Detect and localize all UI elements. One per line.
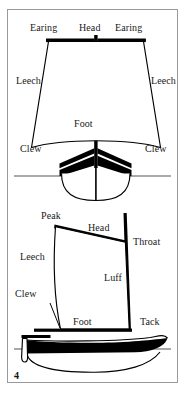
label-foot-bottom: Foot [73, 317, 92, 327]
sail-terminology-diagram [0, 0, 192, 401]
label-leech-left: Leech [16, 76, 41, 86]
tiller [22, 335, 51, 338]
label-leech-bottom: Leech [20, 252, 45, 262]
rudder-blade [22, 339, 28, 363]
label-earing-left: Earing [30, 23, 57, 33]
label-tack: Tack [140, 317, 160, 327]
label-leech-right: Leech [151, 76, 176, 86]
label-luff: Luff [104, 273, 122, 283]
label-throat: Throat [133, 237, 160, 247]
label-head-bottom: Head [88, 223, 110, 233]
label-clew-right: Clew [145, 144, 167, 154]
label-clew-bottom: Clew [15, 289, 37, 299]
hull-underbody-side [27, 352, 161, 372]
label-peak: Peak [41, 211, 61, 221]
boom-spar [34, 329, 132, 332]
figure-number: 4 [14, 371, 19, 381]
figure-page: Earing Head Earing Leech Leech Foot Clew… [0, 0, 192, 401]
label-foot-top: Foot [74, 119, 93, 129]
label-earing-right: Earing [115, 23, 142, 33]
square-sail-outline [32, 42, 161, 148]
label-head-top: Head [79, 23, 101, 33]
label-clew-left: Clew [20, 144, 42, 154]
mast-through-hull [95, 168, 97, 200]
